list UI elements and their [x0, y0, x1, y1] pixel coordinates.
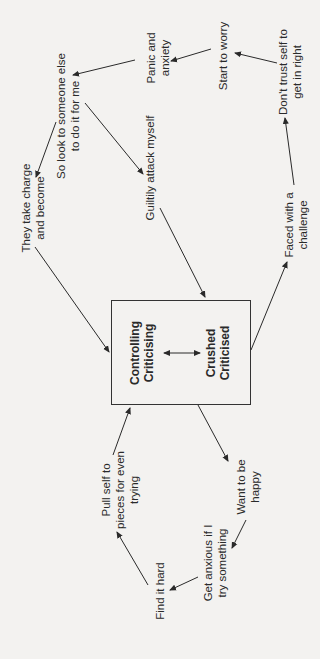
- node-get-anxious: Get anxious if I try something: [201, 525, 229, 602]
- node-find-it-hard: Find it hard: [153, 562, 167, 620]
- node-text: Faced with a: [282, 192, 296, 257]
- node-text: to do it for me: [68, 53, 82, 179]
- node-text: trying: [127, 451, 141, 529]
- edge-worry-to-panic: [171, 49, 211, 61]
- label-criticising: Criticising: [142, 321, 156, 385]
- node-text: try something: [215, 525, 229, 602]
- node-text: Pull self to: [99, 451, 113, 529]
- edge-pullself-to-box: [113, 408, 130, 455]
- node-text: They take charge: [19, 164, 33, 253]
- label-crushed-criticised: Crushed Criticised: [204, 326, 232, 381]
- node-look-to-someone-else: So look to someone else to do it for me: [54, 53, 82, 179]
- node-text: Get anxious if I: [201, 525, 215, 602]
- node-pull-self-to-pieces: Pull self to pieces for even trying: [99, 451, 141, 529]
- node-text: pieces for even: [113, 451, 127, 529]
- label-controlling: Controlling: [128, 321, 142, 385]
- edge-getanxious-to-findhard: [170, 577, 198, 590]
- node-text: Start to worry: [216, 22, 230, 90]
- edge-panic-to-looksomeone: [73, 60, 135, 75]
- node-text: happy: [248, 459, 262, 514]
- node-dont-trust-self: Don't trust self to get in right: [276, 29, 304, 115]
- node-want-to-be-happy: Want to be happy: [234, 459, 262, 514]
- node-text: Find it hard: [153, 562, 167, 620]
- label-controlling-criticising: Controlling Criticising: [128, 321, 156, 385]
- edge-box-to-faced: [251, 262, 287, 350]
- edge-wanthappy-to-getanxious: [232, 520, 246, 548]
- node-text: So look to someone else: [54, 53, 68, 179]
- edge-donttrust-to-worry: [235, 53, 277, 63]
- node-text: challenge: [296, 192, 310, 257]
- node-text: get in right: [290, 29, 304, 115]
- edge-looksomeone-to-guiltily: [85, 103, 143, 174]
- label-crushed: Crushed: [204, 326, 218, 381]
- node-text: Panic and: [144, 32, 158, 83]
- edge-findhard-to-pullself: [117, 532, 148, 585]
- node-panic-anxiety: Panic and anxiety: [144, 32, 172, 83]
- node-text: and become: [33, 164, 47, 253]
- node-text: Guiltily attack myself: [143, 116, 157, 221]
- node-faced-with-challenge: Faced with a challenge: [282, 192, 310, 257]
- edge-theytake-to-box: [35, 247, 109, 352]
- node-they-take-charge: They take charge and become: [19, 164, 47, 253]
- node-guiltily-attack-myself: Guiltily attack myself: [143, 116, 157, 221]
- node-text: anxiety: [158, 32, 172, 83]
- node-start-to-worry: Start to worry: [216, 22, 230, 90]
- edge-guiltily-to-box: [160, 208, 205, 297]
- label-criticised: Criticised: [218, 326, 232, 381]
- edge-faced-to-donttrust: [285, 118, 294, 185]
- node-text: Want to be: [234, 459, 248, 514]
- node-text: Don't trust self to: [276, 29, 290, 115]
- edge-box-to-wanthappy: [198, 405, 228, 461]
